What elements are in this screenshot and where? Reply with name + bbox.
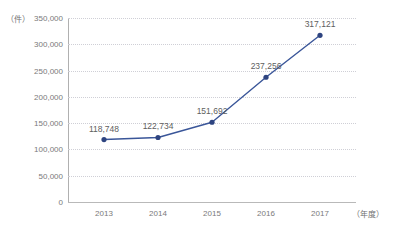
y-axis-tick-label: 50,000 xyxy=(39,171,63,180)
x-axis-baseline xyxy=(68,202,356,203)
y-axis-tick-label: 200,000 xyxy=(34,92,63,101)
data-point-marker[interactable] xyxy=(317,33,322,38)
y-axis-tick-label: 0 xyxy=(59,198,63,207)
plot-area: 050,000100,000150,000200,000250,000300,0… xyxy=(68,18,356,202)
data-point-value-label: 122,734 xyxy=(143,121,174,131)
y-axis-unit-label: （件） xyxy=(6,13,30,24)
line-chart: （件） （年度） 050,000100,000150,000200,000250… xyxy=(0,0,396,237)
x-axis-tick-label: 2016 xyxy=(257,209,275,218)
y-axis-tick-label: 350,000 xyxy=(34,14,63,23)
data-point-value-label: 118,748 xyxy=(89,124,119,134)
y-axis-tick-label: 100,000 xyxy=(34,145,63,154)
data-point-value-label: 237,256 xyxy=(251,61,282,71)
y-axis-tick-label: 150,000 xyxy=(34,119,63,128)
y-axis-tick-label: 300,000 xyxy=(34,40,63,49)
y-axis-tick-label: 250,000 xyxy=(34,66,63,75)
data-point-value-label: 151,692 xyxy=(197,106,228,116)
series-markers xyxy=(101,33,322,142)
data-point-marker[interactable] xyxy=(101,137,106,142)
data-point-marker[interactable] xyxy=(155,135,160,140)
data-point-marker[interactable] xyxy=(263,75,268,80)
x-axis-unit-label: （年度） xyxy=(352,208,384,219)
x-axis-tick-label: 2013 xyxy=(95,209,113,218)
x-axis-tick-label: 2017 xyxy=(311,209,329,218)
data-point-value-label: 317,121 xyxy=(305,19,336,29)
data-point-marker[interactable] xyxy=(209,120,214,125)
x-axis-tick-label: 2014 xyxy=(149,209,167,218)
x-axis-tick-label: 2015 xyxy=(203,209,221,218)
